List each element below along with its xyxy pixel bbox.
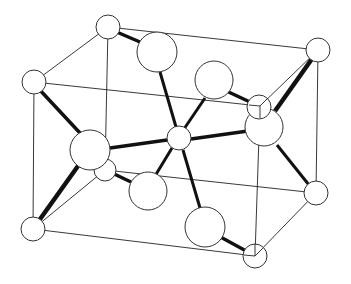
atom-anion-bottom <box>185 207 225 247</box>
atom-corner-back-bottom-right <box>304 181 328 205</box>
atom-corner-back-top-right <box>306 38 330 62</box>
atoms <box>21 15 330 268</box>
atom-corner-front-top-left <box>22 70 46 94</box>
atom-anion-upper-right <box>195 61 233 99</box>
atom-anion-left <box>70 130 110 170</box>
edge-vertical-front-left <box>33 82 34 229</box>
atom-body-center <box>167 126 191 150</box>
bond-anion-upper-right-to-center <box>184 98 205 129</box>
bond-anion-right-to-center <box>191 131 248 139</box>
bond-anion-left-to-front-top-corner <box>38 88 80 133</box>
bond-anion-left-to-front-bottom-corner <box>38 166 78 222</box>
atom-corner-back-top-left <box>96 15 120 39</box>
atom-corner-front-bottom-left <box>21 217 45 241</box>
edge-vertical-back-right <box>316 50 318 193</box>
bond-anion-lower-to-center <box>155 148 172 176</box>
bond-anion-left-to-center <box>110 140 167 148</box>
bond-anion-right-to-back-bottom-corner <box>277 145 309 185</box>
edge-top-left <box>34 27 108 82</box>
bond-anion-right-to-back-top-corner <box>275 56 314 111</box>
atom-anion-top <box>137 32 177 72</box>
atom-anion-lower <box>129 172 167 210</box>
edge-bottom-right <box>255 193 316 256</box>
bond-anion-top-to-center <box>160 72 176 127</box>
crystal-unit-cell-diagram: Crystal unit cell (rutile-type structure… <box>0 0 351 284</box>
